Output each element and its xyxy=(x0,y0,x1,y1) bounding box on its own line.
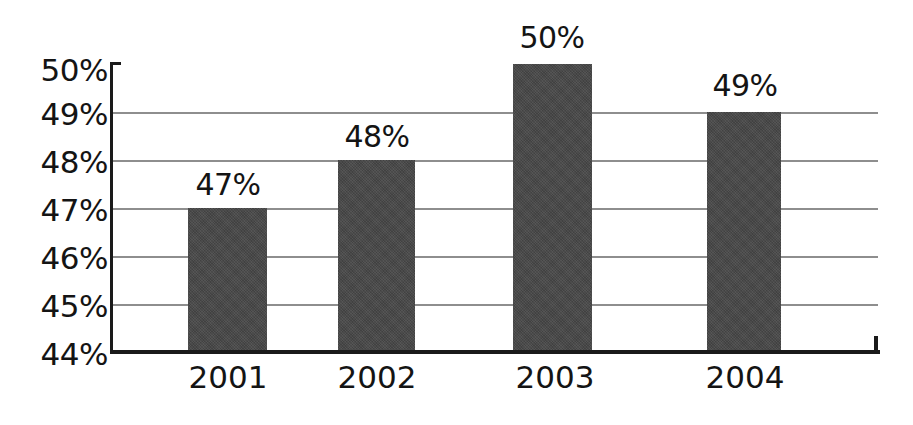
value-label-2004: 49% xyxy=(712,71,777,101)
y-tick-label-46: 46% xyxy=(30,243,108,274)
bar-2004 xyxy=(707,112,781,352)
y-tick-label-45: 45% xyxy=(30,291,108,322)
bar-2002 xyxy=(338,160,415,352)
y-tick-label-48: 48% xyxy=(30,147,108,178)
y-tick-label-44: 44% xyxy=(30,339,108,370)
y-axis-tick-labels: 50% 49% 48% 47% 46% 45% 44% xyxy=(22,0,108,425)
bar-chart: 50% 49% 48% 47% 46% 45% 44% 47% 48% 50% … xyxy=(0,0,913,425)
x-axis-line xyxy=(110,350,880,354)
category-label-2004: 2004 xyxy=(706,362,785,393)
y-tick-label-49: 49% xyxy=(30,99,108,130)
category-label-2003: 2003 xyxy=(516,362,595,393)
value-label-2001: 47% xyxy=(195,170,260,200)
bar-2003 xyxy=(513,64,592,352)
value-label-2003: 50% xyxy=(519,23,584,53)
category-label-2002: 2002 xyxy=(338,362,417,393)
bar-2001 xyxy=(188,208,267,352)
y-axis-line xyxy=(110,62,113,354)
value-label-2002: 48% xyxy=(344,122,409,152)
plot-area xyxy=(112,64,878,352)
x-axis-right-tick xyxy=(874,336,878,352)
y-tick-label-47: 47% xyxy=(30,195,108,226)
category-label-2001: 2001 xyxy=(189,362,268,393)
y-tick-label-50: 50% xyxy=(30,55,108,86)
y-axis-top-tick xyxy=(110,62,121,65)
